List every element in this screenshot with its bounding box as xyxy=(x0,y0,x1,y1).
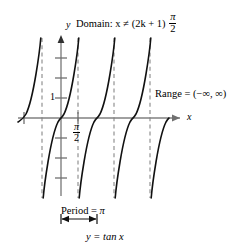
y-axis-label: y xyxy=(66,20,70,30)
period-arrowhead-left xyxy=(62,216,70,222)
tangent-function-figure: Domain: x ≠ (2k + 1) π 2 Range = (−∞, ∞)… xyxy=(0,0,235,251)
y-axis-arrowhead xyxy=(58,35,65,43)
equation-caption: y = tan x xyxy=(86,232,124,243)
x-axis-pi-over-two-label: π 2 xyxy=(72,122,81,143)
period-annotation-text: Period = xyxy=(61,205,100,216)
domain-annotation-text: Domain: x ≠ (2k + 1) xyxy=(76,18,166,29)
branch-left-partial xyxy=(18,38,41,122)
x-axis-label: x xyxy=(187,112,191,122)
domain-pi-over-two-fraction: π 2 xyxy=(169,12,176,34)
domain-fraction-numerator: π xyxy=(169,12,176,24)
x-axis-pi-over-two-fraction: π 2 xyxy=(73,122,80,143)
branch-right-partial xyxy=(151,118,169,198)
period-value: π xyxy=(100,205,105,216)
x-axis-arrowhead xyxy=(172,115,180,122)
domain-annotation: Domain: x ≠ (2k + 1) π 2 xyxy=(76,12,177,34)
x-axis-fraction-denominator: 2 xyxy=(73,133,80,143)
y-axis-unit-tick-label: 1 xyxy=(50,92,55,102)
period-arrowhead-right xyxy=(89,216,97,222)
domain-fraction-denominator: 2 xyxy=(169,24,176,35)
range-annotation: Range = (−∞, ∞) xyxy=(155,89,226,100)
tangent-graph-svg xyxy=(0,0,235,251)
period-annotation: Period = π xyxy=(61,206,105,217)
